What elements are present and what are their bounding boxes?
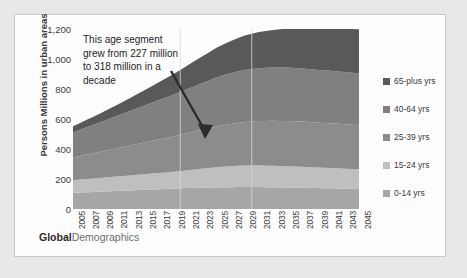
x-tick-label: 2011 <box>119 211 129 228</box>
y-axis-ticks: 02004006008001,0001,200 <box>27 29 71 209</box>
x-tick-label: 2031 <box>262 211 272 229</box>
legend-swatch-icon <box>383 78 390 85</box>
y-tick-label: 800 <box>37 84 71 95</box>
legend-item-25-39-yrs[interactable]: 25-39 yrs <box>383 131 429 143</box>
y-tick-label: 1,000 <box>37 54 71 65</box>
x-tick-label: 2017 <box>162 211 172 229</box>
legend-swatch-icon <box>383 162 390 169</box>
x-tick-label: 2027 <box>234 211 244 229</box>
legend-label: 15-24 yrs <box>394 160 429 170</box>
legend-swatch-icon <box>383 134 390 141</box>
x-tick-label: 2007 <box>91 211 101 229</box>
x-tick-label: 2013 <box>134 211 144 229</box>
legend-item-15-24-yrs[interactable]: 15-24 yrs <box>383 159 429 171</box>
legend-label: 0-14 yrs <box>394 188 425 198</box>
x-tick-label: 2023 <box>205 211 215 229</box>
y-tick-label: 600 <box>37 114 71 125</box>
brand-logo-second: Demographics <box>72 231 140 243</box>
x-tick-label: 2015 <box>148 211 158 229</box>
x-tick-label: 2033 <box>277 211 287 229</box>
x-tick-label: 2041 <box>334 211 344 229</box>
x-tick-label: 2019 <box>177 211 187 229</box>
chart-card: Persons Millions in urban areas 02004006… <box>14 14 446 257</box>
x-tick-label: 2009 <box>105 211 115 229</box>
x-tick-label: 2025 <box>220 211 230 229</box>
x-tick-label: 2045 <box>363 211 373 229</box>
y-tick-label: 400 <box>37 144 71 155</box>
y-tick-label: 1,200 <box>37 24 71 35</box>
brand-logo: GlobalDemographics <box>39 231 139 243</box>
legend-item-40-64-yrs[interactable]: 40-64 yrs <box>383 103 429 115</box>
x-tick-label: 2005 <box>77 211 87 229</box>
legend-swatch-icon <box>383 190 390 197</box>
legend-swatch-icon <box>383 106 390 113</box>
x-tick-label: 2021 <box>191 211 201 229</box>
y-tick-label: 0 <box>37 204 71 215</box>
page-top-artifact-text: · · · · · ·· · <box>10 1 100 10</box>
legend-label: 25-39 yrs <box>394 132 429 142</box>
x-tick-label: 2035 <box>291 211 301 229</box>
x-tick-label: 2029 <box>248 211 258 229</box>
legend-item-0-14-yrs[interactable]: 0-14 yrs <box>383 187 425 199</box>
annotation-arrow-icon <box>165 67 225 145</box>
x-tick-label: 2039 <box>320 211 330 229</box>
brand-logo-first: Global <box>39 231 72 243</box>
y-tick-label: 200 <box>37 174 71 185</box>
legend-item-65-plus-yrs[interactable]: 65-plus yrs <box>383 75 436 87</box>
chart-legend: 65-plus yrs40-64 yrs25-39 yrs15-24 yrs0-… <box>383 75 447 215</box>
x-tick-label: 2037 <box>305 211 315 229</box>
legend-label: 40-64 yrs <box>394 104 429 114</box>
legend-label: 65-plus yrs <box>394 76 436 86</box>
x-tick-label: 2043 <box>348 211 358 229</box>
